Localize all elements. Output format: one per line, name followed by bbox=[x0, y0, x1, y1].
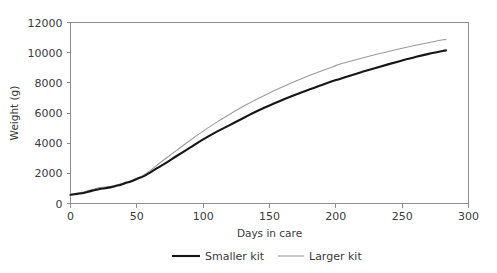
y-tick-label: 10000 bbox=[28, 47, 63, 60]
x-axis-title: Days in care bbox=[237, 227, 302, 239]
legend-label-smaller-kit: Smaller kit bbox=[205, 250, 265, 263]
y-tick-label: 6000 bbox=[35, 107, 63, 120]
y-tick-label: 12000 bbox=[28, 17, 63, 30]
x-tick-label: 0 bbox=[67, 210, 74, 223]
series-line-smaller-kit bbox=[71, 50, 446, 194]
x-tick-label: 100 bbox=[193, 210, 214, 223]
x-tick-label: 150 bbox=[259, 210, 280, 223]
legend-label-larger-kit: Larger kit bbox=[309, 250, 362, 263]
y-axis-title: Weight (g) bbox=[8, 86, 20, 141]
series-line-larger-kit bbox=[71, 39, 446, 194]
y-tick-label: 2000 bbox=[35, 167, 63, 180]
weight-growth-chart: 0200040006000800010000120000501001502002… bbox=[0, 0, 497, 273]
y-tick-label: 0 bbox=[56, 198, 63, 211]
x-tick-label: 50 bbox=[130, 210, 144, 223]
y-tick-label: 8000 bbox=[35, 77, 63, 90]
chart-canvas: 0200040006000800010000120000501001502002… bbox=[0, 0, 497, 273]
x-tick-label: 250 bbox=[392, 210, 413, 223]
plot-frame bbox=[71, 23, 469, 204]
x-tick-label: 200 bbox=[325, 210, 346, 223]
x-tick-label: 300 bbox=[458, 210, 479, 223]
y-tick-label: 4000 bbox=[35, 137, 63, 150]
